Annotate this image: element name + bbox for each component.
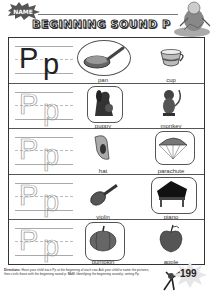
picture-label: cup	[149, 77, 193, 83]
picture-pumpkin[interactable]: pumpkin	[81, 222, 125, 264]
picture-label: monkey	[149, 123, 193, 129]
picture-pan[interactable]: pan	[81, 40, 125, 82]
uppercase-letter: P	[19, 42, 38, 74]
trace-lowercase-letter: p	[43, 230, 59, 262]
skill-body: Identifying the beginning sound p; writi…	[76, 272, 139, 276]
worksheet-row: P p violin piano	[9, 175, 204, 221]
picture-parachute[interactable]: parachute	[149, 131, 193, 173]
picture-puppy[interactable]: puppy	[81, 86, 125, 128]
picture-apple[interactable]: apple	[149, 222, 193, 264]
picture-label: piano	[149, 214, 193, 220]
picture-label: pan	[81, 77, 125, 83]
letter-trace[interactable]: P p	[15, 181, 73, 215]
picture-hat[interactable]: hat	[81, 131, 125, 173]
answer-circle	[151, 177, 197, 214]
monkey-icon	[149, 86, 193, 120]
name-label: NAME	[13, 8, 33, 15]
worksheet-box: P p pan cup P p	[8, 37, 205, 265]
directions-text: Directions: Have your child trace Pp at …	[4, 268, 154, 276]
lowercase-letter: p	[43, 48, 59, 80]
picture-monkey[interactable]: monkey	[149, 86, 193, 128]
answer-circle	[87, 86, 123, 123]
page-title: BEGINNING SOUND P	[32, 18, 171, 31]
worksheet-row: P p hat parachute	[9, 129, 204, 175]
answer-circle	[155, 131, 195, 165]
picture-violin[interactable]: violin	[81, 177, 125, 219]
trace-uppercase-letter: P	[19, 224, 38, 256]
picture-label: parachute	[149, 168, 193, 174]
trace-uppercase-letter: P	[19, 133, 38, 165]
picture-label: puppy	[81, 123, 125, 129]
apple-icon	[149, 222, 193, 256]
picture-piano[interactable]: piano	[149, 177, 193, 219]
trace-lowercase-letter: p	[43, 139, 59, 171]
violin-icon	[81, 177, 125, 211]
picture-label: violin	[81, 214, 125, 220]
skill-label: Skill:	[68, 272, 76, 276]
answer-circle	[85, 222, 125, 261]
trace-lowercase-letter: p	[43, 94, 59, 126]
worksheet-row: P p pan cup	[9, 38, 204, 84]
picture-label: pumpkin	[81, 259, 125, 265]
letter-trace[interactable]: P p	[15, 226, 73, 260]
cup-icon	[149, 40, 193, 74]
name-write-line[interactable]	[38, 14, 178, 15]
picture-label: hat	[81, 168, 125, 174]
picture-cup[interactable]: cup	[149, 40, 193, 82]
page-number: 199	[180, 268, 197, 279]
letter-trace[interactable]: P p	[15, 135, 73, 169]
trace-lowercase-letter: p	[43, 185, 59, 217]
trace-uppercase-letter: P	[19, 179, 38, 211]
worksheet-row: P p puppy monkey	[9, 84, 204, 130]
worksheet-row: P p pumpkin apple	[9, 220, 204, 266]
answer-circle	[77, 40, 131, 76]
letter-model: P p	[15, 44, 73, 78]
trace-uppercase-letter: P	[19, 88, 38, 120]
mascot-illustration-icon	[172, 0, 212, 38]
hat-icon	[81, 131, 125, 165]
letter-trace[interactable]: P p	[15, 90, 73, 124]
